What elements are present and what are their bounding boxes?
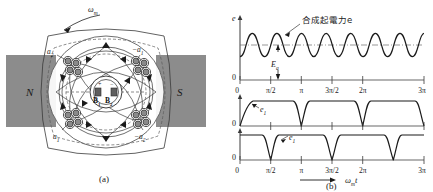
composite-xticklabel-0: 0 (235, 86, 239, 95)
composite-y-axis-label: e (232, 14, 236, 23)
composite-xticklabel-pi: π (299, 86, 303, 95)
chart-coil-emf-1: 0 e1 (232, 94, 424, 130)
commutator-hub: + − B1 B2 (90, 76, 122, 108)
chart-coil-emf-2: 0 0 π/2 π 3π/2 2π 3π e1 (232, 128, 426, 175)
coil2-xticklabel-3pi: 3π (418, 166, 426, 175)
composite-xticklabel-3halfpi: 3π/2 (325, 86, 339, 95)
composite-xticklabel-3pi: 3π (418, 86, 426, 95)
coil1-annotation-arrow-icon (252, 104, 257, 108)
panel-a-caption: (a) (99, 174, 109, 184)
rotation-speed-label: ωm (88, 5, 98, 16)
brush-block-left (95, 88, 101, 96)
coil2-origin-label: 0 (232, 153, 236, 162)
panel-a: N S (6, 5, 206, 184)
coil2-y-axis-arrow-icon (238, 128, 242, 133)
composite-annotation-leader (285, 24, 300, 35)
ea-arrow-up-icon (276, 45, 280, 50)
coil2-xticklabel-0: 0 (235, 166, 239, 175)
xaxis-label: ωmt (345, 175, 358, 187)
coil1-origin-label: 0 (232, 119, 236, 128)
composite-origin-label: 0 (232, 73, 236, 82)
coil2-xticklabel-2pi: 2π (359, 166, 367, 175)
coil2-xticklabel-3halfpi: 3π/2 (325, 166, 339, 175)
chart-composite-emf: e 0 0 π/2 π 3π/2 2π 3π (232, 14, 426, 95)
rotation-indicator: ωm (64, 5, 100, 33)
composite-xticklabel-2pi: 2π (359, 86, 367, 95)
ea-arrow-down-icon (276, 74, 280, 80)
composite-xticklabel-halfpi: π/2 (266, 86, 276, 95)
coil1-label: e1 (260, 105, 267, 116)
pole-left-label: N (25, 86, 34, 98)
ea-marker: Ea (270, 45, 280, 80)
panel-b: e 0 0 π/2 π 3π/2 2π 3π (232, 14, 426, 191)
figure-svg: N S (0, 0, 433, 192)
composite-annotation-label: 合成起電力e (302, 15, 352, 25)
ea-label: Ea (270, 60, 279, 71)
composite-y-axis-arrow-icon (238, 15, 243, 20)
brush-block-right (111, 88, 117, 96)
figure-container: N S (0, 0, 433, 192)
coil2-xticklabel-halfpi: π/2 (266, 166, 276, 175)
coil2-xticklabel-pi: π (299, 166, 303, 175)
panel-b-caption: (b) (326, 181, 337, 191)
pole-right-label: S (177, 86, 183, 98)
